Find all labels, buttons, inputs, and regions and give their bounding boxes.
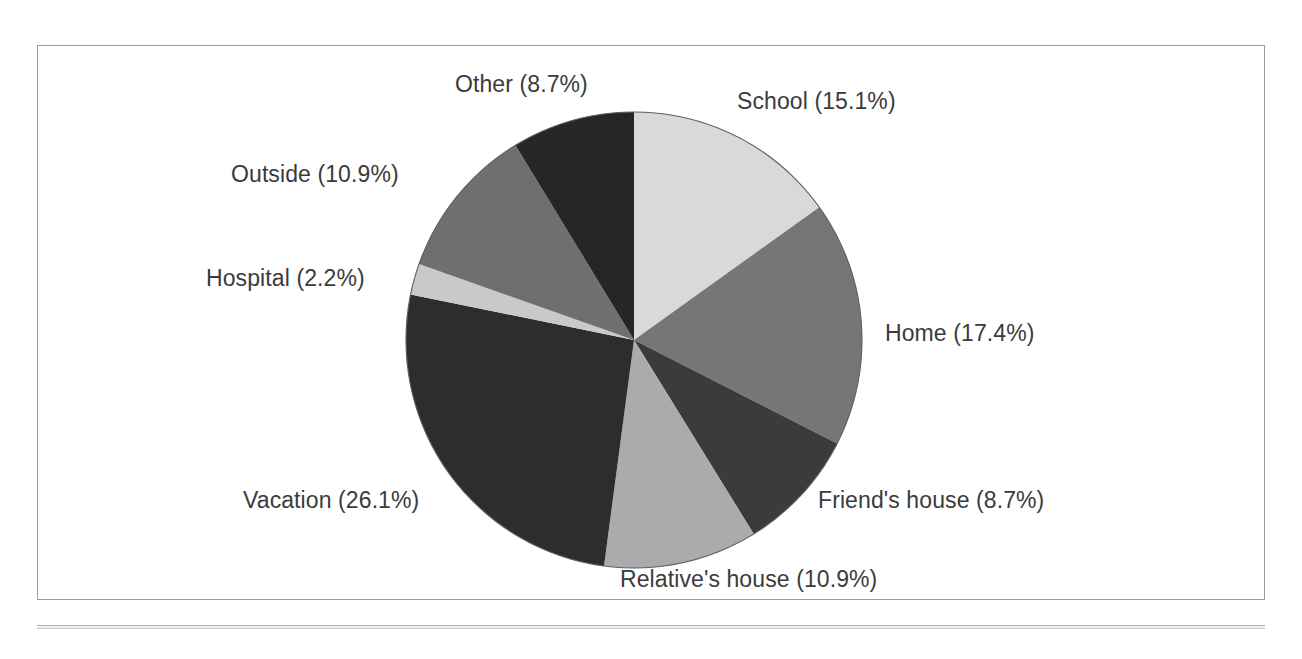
slice-label-school: School (15.1%) — [737, 88, 896, 115]
page-bottom-rule — [37, 625, 1265, 629]
slice-label-hospital: Hospital (2.2%) — [206, 265, 365, 292]
slice-label-outside: Outside (10.9%) — [231, 161, 399, 188]
slice-label-friends-house: Friend's house (8.7%) — [818, 487, 1044, 514]
figure-frame — [37, 45, 1265, 600]
slice-label-other: Other (8.7%) — [455, 71, 588, 98]
slice-label-vacation: Vacation (26.1%) — [243, 487, 419, 514]
slice-label-relatives-house: Relative's house (10.9%) — [620, 566, 877, 593]
chart-page: School (15.1%) Home (17.4%) Friend's hou… — [0, 0, 1302, 659]
slice-label-home: Home (17.4%) — [885, 320, 1034, 347]
